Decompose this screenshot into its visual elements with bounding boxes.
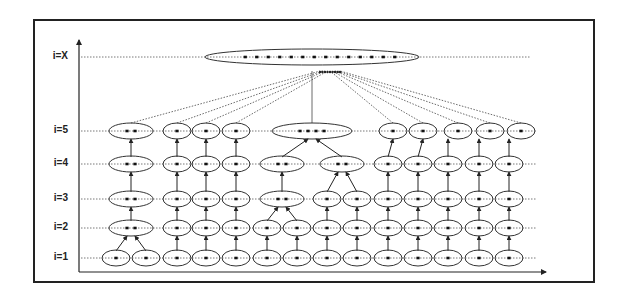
data-point: [301, 56, 304, 59]
data-point: [355, 227, 358, 230]
data-point: [234, 130, 237, 133]
data-point: [284, 163, 287, 166]
data-point: [393, 56, 396, 59]
data-point: [125, 130, 128, 133]
link-endpoint: [334, 71, 336, 73]
cluster-node: [109, 191, 153, 207]
link-endpoint: [319, 71, 321, 73]
data-point: [355, 198, 358, 201]
data-point: [370, 56, 373, 59]
data-point: [125, 198, 128, 201]
data-point: [325, 227, 328, 230]
data-point: [204, 130, 207, 133]
data-point: [477, 163, 480, 166]
data-point: [234, 257, 237, 260]
data-point: [244, 56, 247, 59]
merge-arrow: [316, 139, 342, 157]
data-point: [446, 227, 449, 230]
data-point: [386, 227, 389, 230]
merge-arrow: [327, 172, 338, 192]
data-point: [507, 227, 510, 230]
merge-arrow: [135, 236, 146, 251]
cluster-node: [109, 156, 153, 172]
data-point: [325, 198, 328, 201]
cluster-node: [109, 123, 153, 139]
data-point: [314, 130, 317, 133]
data-point: [175, 163, 178, 166]
data-point: [313, 56, 316, 59]
data-point: [284, 198, 287, 201]
data-point: [125, 163, 128, 166]
data-point: [477, 257, 480, 260]
merge-arrow: [286, 207, 297, 221]
data-point: [477, 227, 480, 230]
data-point: [507, 257, 510, 260]
data-point: [265, 227, 268, 230]
data-point: [488, 130, 491, 133]
data-point: [416, 257, 419, 260]
data-point: [416, 227, 419, 230]
data-point: [446, 198, 449, 201]
data-point: [175, 227, 178, 230]
merge-arrow: [116, 236, 127, 251]
data-point: [133, 163, 136, 166]
data-point: [175, 257, 178, 260]
level-label: i=1: [28, 251, 68, 262]
data-point: [391, 130, 394, 133]
data-point: [295, 227, 298, 230]
edge-arrow: [388, 139, 393, 157]
link-endpoint: [331, 71, 333, 73]
cluster-ellipse: [109, 123, 153, 139]
data-point: [255, 56, 258, 59]
data-point: [267, 56, 270, 59]
cluster-node: [109, 220, 153, 236]
data-point: [114, 257, 117, 260]
data-point: [324, 56, 327, 59]
data-point: [416, 163, 419, 166]
data-point: [336, 56, 339, 59]
data-point: [265, 257, 268, 260]
data-point: [234, 163, 237, 166]
data-point: [175, 130, 178, 133]
merge-arrow: [282, 139, 308, 157]
dotted-link: [236, 71, 328, 123]
level-guide-lines: [81, 57, 536, 258]
data-point: [477, 198, 480, 201]
data-point: [421, 130, 424, 133]
dotted-link: [206, 71, 325, 123]
data-point: [133, 227, 136, 230]
data-point: [234, 227, 237, 230]
level-label: i=5: [28, 124, 68, 135]
data-point: [446, 257, 449, 260]
dotted-link: [333, 71, 424, 123]
data-point: [507, 163, 510, 166]
data-point: [278, 56, 281, 59]
dotted-link: [340, 71, 521, 123]
data-point: [295, 257, 298, 260]
data-point: [276, 163, 279, 166]
data-point: [204, 198, 207, 201]
dotted-link: [335, 71, 458, 123]
edge-arrow: [418, 139, 423, 157]
data-point: [133, 130, 136, 133]
data-point: [456, 130, 459, 133]
data-point: [133, 198, 136, 201]
link-endpoint: [336, 71, 338, 73]
data-point: [204, 227, 207, 230]
data-point: [125, 227, 128, 230]
link-endpoint: [326, 71, 328, 73]
data-point: [204, 257, 207, 260]
nodes: [102, 49, 535, 266]
data-point: [336, 163, 339, 166]
link-endpoint: [329, 71, 331, 73]
merge-arrow: [267, 207, 278, 221]
level-label: i=3: [28, 192, 68, 203]
data-point: [519, 130, 522, 133]
data-point: [204, 163, 207, 166]
level-label: i=2: [28, 221, 68, 232]
dotted-link: [131, 71, 320, 123]
data-point: [347, 56, 350, 59]
data-point: [322, 130, 325, 133]
data-point: [234, 198, 237, 201]
dotted-link: [338, 71, 491, 123]
